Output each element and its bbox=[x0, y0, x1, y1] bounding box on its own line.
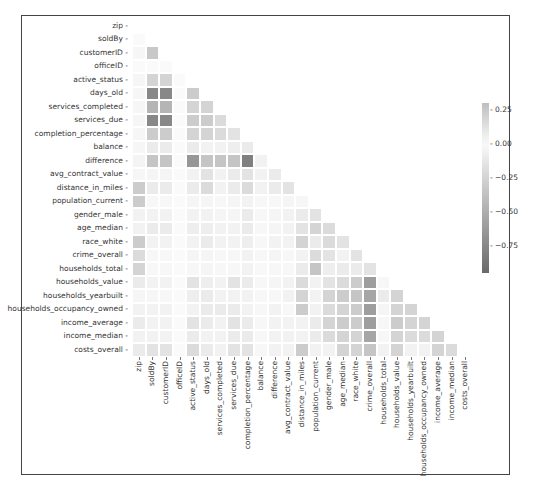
heatmap-cell bbox=[350, 289, 364, 303]
heatmap-cell bbox=[146, 87, 160, 101]
x-tick-label: difference bbox=[270, 361, 279, 399]
heatmap-cell bbox=[322, 262, 336, 276]
heatmap-cell bbox=[173, 100, 187, 114]
heatmap-cell bbox=[159, 87, 173, 101]
heatmap-cell bbox=[322, 303, 336, 317]
heatmap-cell bbox=[227, 330, 241, 344]
heatmap-cell bbox=[404, 303, 418, 317]
heatmap-cell bbox=[200, 168, 214, 182]
y-tick-label: services_due - bbox=[74, 115, 128, 124]
heatmap-cell bbox=[445, 343, 459, 357]
heatmap-cell bbox=[377, 343, 391, 357]
heatmap-cell bbox=[418, 343, 432, 357]
heatmap-cell bbox=[241, 208, 255, 222]
heatmap-cell bbox=[146, 276, 160, 290]
x-tick-label: active_status bbox=[188, 361, 197, 411]
x-tick-label: households_total bbox=[379, 361, 388, 425]
heatmap-cell bbox=[254, 235, 268, 249]
heatmap-cell bbox=[159, 303, 173, 317]
heatmap-cell bbox=[268, 330, 282, 344]
heatmap-cell bbox=[200, 262, 214, 276]
x-tick-label: income_average bbox=[433, 361, 442, 423]
heatmap-cell bbox=[159, 235, 173, 249]
x-tick-label: days_old bbox=[202, 361, 211, 394]
y-tick-label: households_value - bbox=[56, 277, 128, 286]
heatmap-cell bbox=[200, 303, 214, 317]
heatmap-cell bbox=[322, 235, 336, 249]
heatmap-cell bbox=[227, 316, 241, 330]
heatmap-cell bbox=[186, 262, 200, 276]
y-tick-label: completion_percentage - bbox=[35, 129, 128, 138]
heatmap-cell bbox=[363, 276, 377, 290]
heatmap-cell bbox=[241, 262, 255, 276]
heatmap-cell bbox=[214, 316, 228, 330]
heatmap-cell bbox=[214, 249, 228, 263]
heatmap-cell bbox=[282, 195, 296, 209]
y-tick-label: zip - bbox=[112, 21, 128, 30]
heatmap-cell bbox=[173, 87, 187, 101]
heatmap-cell bbox=[390, 303, 404, 317]
heatmap-cell bbox=[268, 303, 282, 317]
heatmap-cell bbox=[254, 276, 268, 290]
heatmap-cell bbox=[200, 289, 214, 303]
x-tick-label: soldBy bbox=[147, 361, 156, 386]
heatmap-cell bbox=[336, 249, 350, 263]
heatmap-cell bbox=[363, 303, 377, 317]
heatmap-cell bbox=[254, 262, 268, 276]
heatmap-cell bbox=[132, 46, 146, 60]
heatmap-cell bbox=[214, 127, 228, 141]
heatmap-cell bbox=[241, 141, 255, 155]
heatmap-cell bbox=[146, 222, 160, 236]
x-tick-label: customerID bbox=[161, 361, 170, 404]
heatmap-cell bbox=[241, 235, 255, 249]
heatmap-cell bbox=[200, 100, 214, 114]
heatmap-cell bbox=[186, 316, 200, 330]
heatmap-cell bbox=[214, 289, 228, 303]
heatmap-cell bbox=[295, 289, 309, 303]
heatmap-cell bbox=[173, 195, 187, 209]
heatmap-cell bbox=[186, 168, 200, 182]
heatmap-cell bbox=[146, 181, 160, 195]
heatmap-cell bbox=[268, 289, 282, 303]
heatmap-cell bbox=[173, 330, 187, 344]
heatmap-cell bbox=[227, 235, 241, 249]
y-tick-label: avg_contract_value - bbox=[50, 169, 128, 178]
colorbar-tick-label: - −0.50 bbox=[490, 207, 518, 216]
heatmap-cell bbox=[322, 276, 336, 290]
heatmap-cell bbox=[159, 168, 173, 182]
heatmap-cell bbox=[200, 343, 214, 357]
heatmap-cell bbox=[227, 343, 241, 357]
y-tick-label: distance_in_miles - bbox=[57, 183, 128, 192]
heatmap-cell bbox=[282, 289, 296, 303]
heatmap-cell bbox=[132, 343, 146, 357]
heatmap-cell bbox=[336, 262, 350, 276]
heatmap-cell bbox=[159, 262, 173, 276]
heatmap-cell bbox=[309, 262, 323, 276]
heatmap-cell bbox=[350, 262, 364, 276]
heatmap-cell bbox=[186, 100, 200, 114]
y-tick-label: income_median - bbox=[64, 331, 128, 340]
heatmap-cell bbox=[146, 127, 160, 141]
heatmap-cell bbox=[309, 276, 323, 290]
heatmap-cell bbox=[159, 316, 173, 330]
heatmap-cell bbox=[186, 289, 200, 303]
x-tick-label: services_due bbox=[229, 361, 238, 410]
heatmap-cell bbox=[186, 141, 200, 155]
y-tick-label: race_white - bbox=[82, 237, 128, 246]
heatmap-cell bbox=[336, 343, 350, 357]
x-tick bbox=[343, 357, 344, 360]
heatmap-cell bbox=[173, 316, 187, 330]
heatmap-cell bbox=[241, 181, 255, 195]
heatmap-cell bbox=[363, 289, 377, 303]
y-tick-label: households_total - bbox=[59, 264, 128, 273]
heatmap-cell bbox=[146, 208, 160, 222]
heatmap-cell bbox=[350, 343, 364, 357]
heatmap-cell bbox=[159, 127, 173, 141]
heatmap-cell bbox=[282, 181, 296, 195]
heatmap-cell bbox=[309, 330, 323, 344]
heatmap-cell bbox=[309, 222, 323, 236]
y-tick-label: households_occupancy_owned - bbox=[8, 304, 128, 313]
y-tick-label: officeID - bbox=[94, 61, 128, 70]
heatmap-cell bbox=[254, 289, 268, 303]
heatmap-cell bbox=[214, 262, 228, 276]
